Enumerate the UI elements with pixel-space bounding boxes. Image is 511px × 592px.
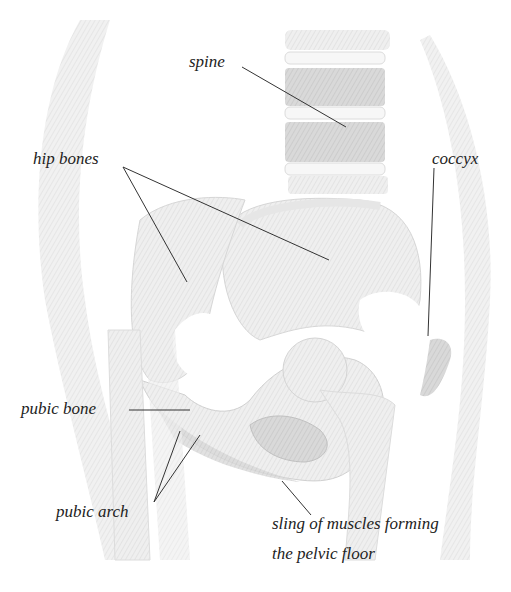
label-hip-bones: hip bones <box>33 150 99 167</box>
label-spine: spine <box>189 53 225 70</box>
label-pelvic-floor-line1: sling of muscles forming <box>272 515 439 532</box>
body-outline-right <box>420 35 491 560</box>
label-pubic-arch: pubic arch <box>56 503 129 520</box>
label-coccyx: coccyx <box>432 150 478 167</box>
pelvis-diagram: spine hip bones coccyx pubic bone pubic … <box>0 0 511 592</box>
label-pubic-bone: pubic bone <box>21 400 96 417</box>
coccyx-bone <box>420 339 451 397</box>
spine-vertebrae <box>285 30 390 194</box>
label-pelvic-floor-line2: the pelvic floor <box>272 545 375 562</box>
